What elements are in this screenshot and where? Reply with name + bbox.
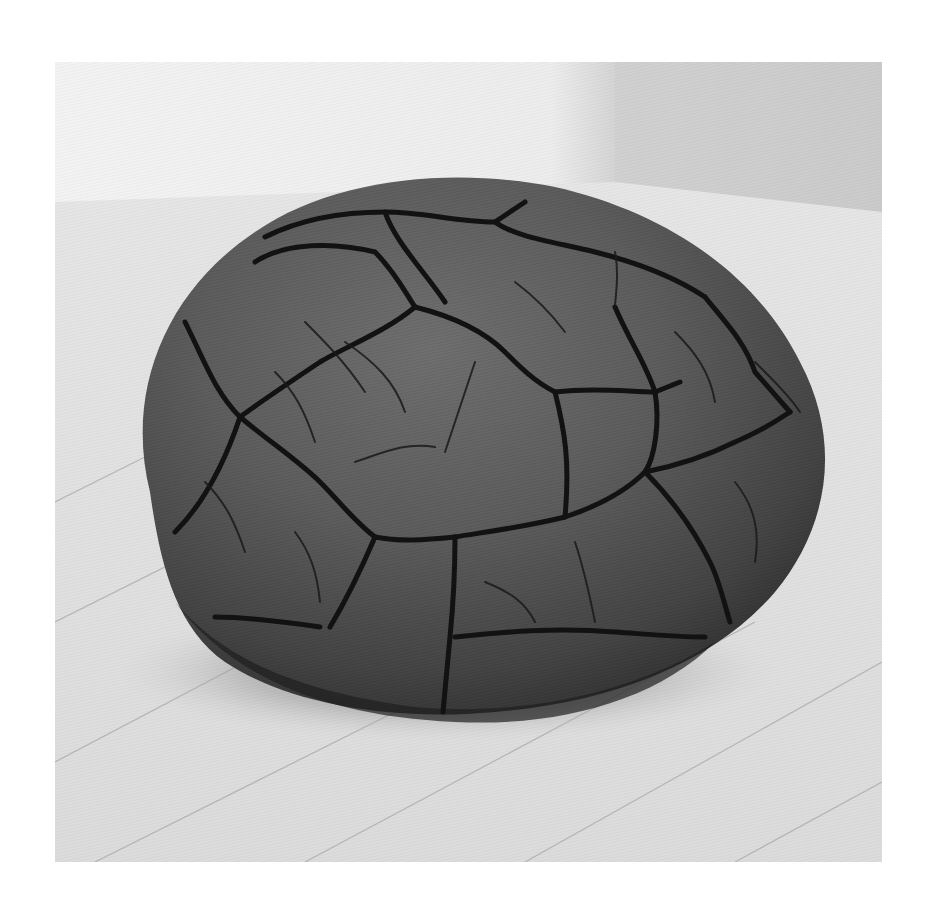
- page: [0, 0, 943, 917]
- photograph: [55, 62, 882, 862]
- boulder-photo-svg: [55, 62, 882, 862]
